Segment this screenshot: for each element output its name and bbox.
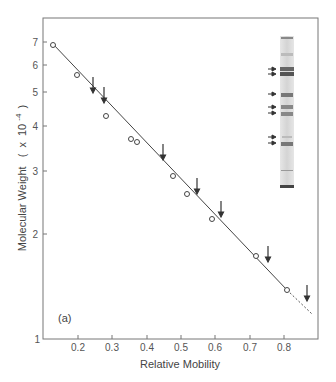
y-axis-title-main: Molecular Weight bbox=[16, 166, 28, 251]
y-tick-7: 7 bbox=[32, 37, 38, 48]
data-point bbox=[51, 43, 56, 48]
y-tick-6: 6 bbox=[32, 60, 38, 71]
x-tick-0.6: 0.6 bbox=[208, 342, 222, 353]
x-tick-labels: 0.2 0.3 0.4 0.5 0.6 0.7 0.8 bbox=[71, 342, 291, 353]
arrow-down-icon bbox=[91, 77, 96, 93]
data-point bbox=[171, 174, 176, 179]
data-point bbox=[210, 217, 215, 222]
arrow-down-icon bbox=[266, 246, 271, 262]
x-tick-0.8: 0.8 bbox=[277, 342, 291, 353]
data-point bbox=[254, 254, 259, 259]
x-axis-title: Relative Mobility bbox=[140, 358, 221, 370]
arrow-down-icon bbox=[102, 87, 107, 103]
band-marker-arrow-icon bbox=[268, 111, 276, 115]
arrow-down-icon bbox=[305, 285, 310, 301]
band-marker-arrow-icon bbox=[268, 105, 276, 109]
data-point bbox=[135, 140, 140, 145]
panel-label: (a) bbox=[58, 312, 71, 324]
data-point bbox=[185, 192, 190, 197]
y-axis-title-paren-open: ( bbox=[16, 153, 28, 157]
data-point bbox=[104, 114, 109, 119]
band-marker-arrow-icon bbox=[268, 92, 276, 96]
x-axis bbox=[78, 335, 284, 339]
x-tick-0.5: 0.5 bbox=[174, 342, 188, 353]
arrow-down-icon bbox=[219, 201, 224, 217]
band-marker-arrow-icon bbox=[268, 67, 276, 71]
band-marker-arrow-icon bbox=[268, 135, 276, 139]
y-axis-title-exponent: -4 bbox=[14, 113, 23, 121]
data-point bbox=[75, 73, 80, 78]
y-tick-1: 1 bbox=[34, 334, 40, 345]
y-axis bbox=[43, 42, 47, 234]
svg-text:Molecular Weight (: Molecular Weight ( x 10 -4 ) bbox=[11, 105, 28, 251]
y-axis-title-base: 10 bbox=[16, 124, 28, 136]
x-tick-0.2: 0.2 bbox=[71, 342, 85, 353]
molecular-weight-chart: 7 6 5 4 3 2 1 0.2 0.3 0.4 0.5 0.6 0.7 0.… bbox=[0, 0, 336, 382]
x-tick-0.4: 0.4 bbox=[140, 342, 154, 353]
y-axis-title: Molecular Weight ( x 10 -4 ) bbox=[11, 105, 28, 251]
fit-line bbox=[53, 44, 287, 290]
data-point bbox=[285, 288, 290, 293]
y-tick-5: 5 bbox=[32, 87, 38, 98]
y-tick-3: 3 bbox=[32, 166, 38, 177]
y-axis-title-x: x bbox=[16, 142, 28, 148]
y-axis-title-paren-close: ) bbox=[16, 105, 28, 109]
x-tick-0.7: 0.7 bbox=[243, 342, 257, 353]
extrapolation-line bbox=[287, 290, 312, 314]
band-marker-arrow-icon bbox=[268, 141, 276, 145]
data-point bbox=[129, 137, 134, 142]
arrow-down-icon bbox=[161, 144, 166, 160]
x-tick-0.3: 0.3 bbox=[105, 342, 119, 353]
arrows bbox=[91, 77, 310, 301]
y-tick-labels: 7 6 5 4 3 2 1 bbox=[32, 37, 40, 345]
band-marker-arrow-icon bbox=[268, 72, 276, 76]
arrow-down-icon bbox=[195, 178, 200, 194]
y-tick-4: 4 bbox=[32, 121, 38, 132]
y-tick-2: 2 bbox=[32, 229, 38, 240]
gel-lane-image bbox=[268, 36, 294, 188]
